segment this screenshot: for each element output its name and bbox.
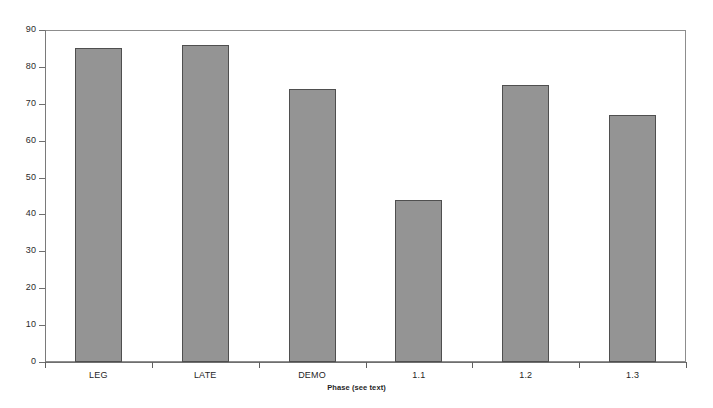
y-tick-label: 20 — [26, 282, 36, 293]
y-tick-label: 70 — [26, 98, 36, 109]
y-tick-40: 40 — [39, 214, 45, 215]
x-axis-title: Phase (see text) — [0, 383, 713, 392]
x-tick — [686, 362, 687, 368]
bar-1.2 — [502, 85, 549, 362]
y-tick-label: 80 — [26, 61, 36, 72]
plot-frame — [45, 30, 686, 362]
bar-1.1 — [395, 200, 442, 362]
x-label-1.2: 1.2 — [472, 369, 579, 381]
y-tick-60: 60 — [39, 141, 45, 142]
y-tick-50: 50 — [39, 178, 45, 179]
x-label-1.3: 1.3 — [579, 369, 686, 381]
x-label-DEMO: DEMO — [259, 369, 366, 381]
x-tick — [259, 362, 260, 368]
y-tick-label: 60 — [26, 135, 36, 146]
y-tick-90: 90 — [39, 30, 45, 31]
y-tick-label: 40 — [26, 208, 36, 219]
y-tick-label: 10 — [26, 319, 36, 330]
x-tick — [152, 362, 153, 368]
bar-1.3 — [609, 115, 656, 362]
x-label-1.1: 1.1 — [366, 369, 473, 381]
y-axis-line — [45, 30, 46, 363]
y-tick-80: 80 — [39, 67, 45, 68]
x-tick — [579, 362, 580, 368]
bar-LEG — [75, 48, 122, 362]
y-tick-20: 20 — [39, 288, 45, 289]
bar-LATE — [182, 45, 229, 362]
x-tick — [45, 362, 46, 368]
x-tick — [366, 362, 367, 368]
y-tick-label: 90 — [26, 24, 36, 35]
y-tick-label: 0 — [31, 356, 36, 367]
bar-DEMO — [289, 89, 336, 362]
y-tick-30: 30 — [39, 251, 45, 252]
x-label-LATE: LATE — [152, 369, 259, 381]
y-tick-label: 30 — [26, 245, 36, 256]
y-tick-70: 70 — [39, 104, 45, 105]
x-tick — [472, 362, 473, 368]
bar-chart: 0102030405060708090 LEGLATEDEMO1.11.21.3… — [0, 0, 713, 408]
y-tick-label: 50 — [26, 172, 36, 183]
y-tick-10: 10 — [39, 325, 45, 326]
x-label-LEG: LEG — [45, 369, 152, 381]
